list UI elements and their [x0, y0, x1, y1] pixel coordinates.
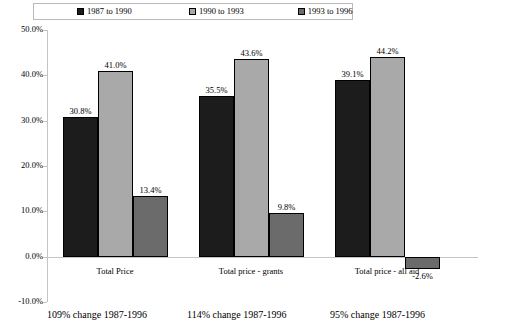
bar-total-price-grants-1990-1993[interactable] [234, 59, 269, 257]
y-tick-label: 20.0% [5, 160, 47, 170]
bar-value-label: 43.6% [224, 48, 279, 58]
x-axis-label-total-price: Total Price [60, 266, 170, 276]
y-tick-label: 30.0% [5, 115, 47, 125]
legend-label: 1990 to 1993 [199, 7, 244, 16]
bar-value-label: 44.2% [360, 46, 415, 56]
bar-value-label: 9.8% [259, 202, 314, 212]
y-tick-neg10: -10.0% [1, 302, 478, 303]
bar-total-price-all-aid-1987-1990[interactable] [335, 80, 370, 257]
y-tick-mark [43, 302, 47, 303]
legend-label: 1993 to 1996 [308, 7, 353, 16]
y-tick-mark [43, 121, 47, 122]
y-tick-label: 50.0% [5, 24, 47, 34]
x-axis-label-total-price-grants: Total price - grants [196, 266, 306, 276]
bar-total-price-all-aid-1993-1996[interactable] [405, 257, 440, 269]
bar-total-price-1987-1990[interactable] [63, 117, 98, 257]
y-tick-50: 50.0% [1, 30, 478, 31]
chart-legend: 1987 to 1990 1990 to 1993 1993 to 1996 [33, 3, 353, 20]
y-tick-mark [43, 166, 47, 167]
legend-item-1987-to-1990: 1987 to 1990 [77, 4, 132, 19]
bar-total-price-all-aid-1990-1993[interactable] [370, 57, 405, 257]
legend-swatch-icon [298, 8, 305, 15]
bar-chart: 1987 to 1990 1990 to 1993 1993 to 1996 5… [0, 0, 507, 335]
y-tick-mark [43, 211, 47, 212]
plot-area: 50.0% 40.0% 30.0% 20.0% 10.0% 0.0% -10.0… [47, 30, 478, 302]
bar-value-label: 13.4% [123, 185, 178, 195]
legend-item-1993-to-1996: 1993 to 1996 [298, 4, 353, 19]
legend-label: 1987 to 1990 [87, 7, 132, 16]
caption-total-price: 109% change 1987-1996 [47, 309, 147, 321]
bar-total-price-grants-1993-1996[interactable] [269, 213, 304, 257]
bar-value-label: 41.0% [88, 60, 143, 70]
bar-value-label: -2.6% [395, 271, 450, 281]
y-tick-mark [43, 30, 47, 31]
legend-item-1990-to-1993: 1990 to 1993 [189, 4, 244, 19]
y-tick-label: -10.0% [5, 296, 47, 306]
y-tick-mark [43, 75, 47, 76]
legend-swatch-icon [189, 8, 196, 15]
y-tick-label: 10.0% [5, 205, 47, 215]
bar-total-price-1993-1996[interactable] [133, 196, 168, 257]
legend-swatch-icon [77, 8, 84, 15]
y-tick-label: 40.0% [5, 69, 47, 79]
y-tick-label: 0.0% [5, 251, 47, 261]
bar-total-price-1990-1993[interactable] [98, 71, 133, 257]
caption-total-price-all-aid: 95% change 1987-1996 [330, 309, 425, 321]
bar-total-price-grants-1987-1990[interactable] [199, 96, 234, 257]
caption-total-price-grants: 114% change 1987-1996 [187, 309, 287, 321]
